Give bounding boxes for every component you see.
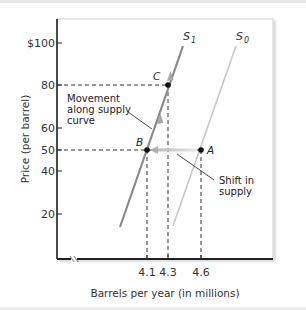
y-axis-title: Price (per barrel) (19, 95, 31, 184)
point-b (144, 147, 150, 153)
point-label-c: C (153, 70, 161, 82)
svg-text:along supply: along supply (67, 104, 131, 115)
shift-arrow (155, 149, 197, 152)
plot-frame (57, 19, 273, 259)
point-a (198, 147, 204, 153)
svg-text:Shift in: Shift in (219, 175, 254, 186)
x-axis-title: Barrels per year (in millions) (90, 287, 239, 299)
x-tick-label: 4.6 (192, 266, 210, 279)
svg-text:S: S (236, 30, 243, 43)
svg-text:1: 1 (191, 36, 196, 45)
svg-text:0: 0 (244, 36, 249, 45)
y-tick-label: 40 (41, 165, 55, 178)
axis-break-icon (70, 255, 78, 263)
svg-text:curve: curve (67, 115, 95, 126)
svg-text:S: S (183, 30, 190, 43)
x-tick-label: 4.3 (159, 266, 177, 279)
point-c (165, 82, 171, 88)
supply-chart: $100 80 60 50 40 20 4.1 4.3 4.6 Barrels … (0, 0, 306, 310)
y-tick-label: 50 (41, 144, 55, 157)
point-label-b: B (136, 136, 143, 148)
x-tick-label: 4.1 (138, 266, 156, 279)
y-tick-label: 80 (41, 79, 55, 92)
svg-text:Movement: Movement (67, 93, 120, 104)
y-tick-label: $100 (27, 37, 55, 50)
y-tick-label: 60 (41, 122, 55, 135)
point-label-a: A (206, 144, 214, 156)
y-tick-label: 20 (41, 208, 55, 221)
svg-text:supply: supply (219, 186, 252, 197)
x-tick-labels: 4.1 4.3 4.6 (138, 266, 210, 279)
y-tick-labels: $100 80 60 50 40 20 (27, 37, 55, 221)
